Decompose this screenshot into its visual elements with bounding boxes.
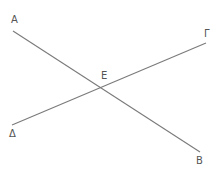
geometry-diagram: A B Γ Δ E bbox=[0, 0, 220, 173]
point-label-a: A bbox=[11, 14, 18, 25]
point-label-delta: Δ bbox=[9, 128, 16, 139]
point-label-b: B bbox=[196, 155, 203, 166]
line-ab bbox=[13, 31, 200, 152]
point-label-e: E bbox=[101, 70, 107, 81]
line-gamma-delta bbox=[12, 43, 206, 125]
point-label-gamma: Γ bbox=[204, 28, 210, 39]
